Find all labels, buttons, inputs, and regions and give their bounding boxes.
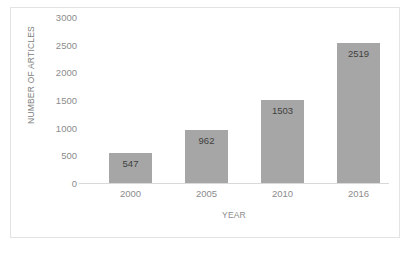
bar-value-label: 547 <box>109 158 152 169</box>
chart-frame: NUMBER OF ARTICLES 0 500 1000 1500 2000 … <box>10 7 400 238</box>
bar-2016[interactable]: 2519 <box>337 43 380 183</box>
y-tick-label: 1000 <box>41 124 77 134</box>
y-axis-tick-labels: 0 500 1000 1500 2000 2500 3000 <box>41 18 77 184</box>
bar-2000[interactable]: 547 <box>109 153 152 183</box>
y-tick-label: 2000 <box>41 68 77 78</box>
x-axis-title: YEAR <box>79 210 389 220</box>
x-axis-tick-labels: 2000 2005 2010 2016 <box>79 188 389 204</box>
y-tick-label: 2500 <box>41 41 77 51</box>
bar-value-label: 962 <box>185 135 228 146</box>
y-tick-label: 0 <box>41 179 77 189</box>
bar-2005[interactable]: 962 <box>185 130 228 183</box>
bar-2010[interactable]: 1503 <box>261 100 304 183</box>
y-tick-label: 500 <box>41 151 77 161</box>
x-tick-label: 2005 <box>169 188 245 199</box>
y-tick-label: 3000 <box>41 13 77 23</box>
bar-value-label: 2519 <box>337 48 380 59</box>
x-tick-label: 2010 <box>245 188 321 199</box>
x-tick-label: 2000 <box>93 188 169 199</box>
x-tick-label: 2016 <box>321 188 397 199</box>
plot-area: 547 962 1503 2519 <box>79 18 389 184</box>
bar-value-label: 1503 <box>261 105 304 116</box>
y-tick-label: 1500 <box>41 96 77 106</box>
x-axis-line <box>79 183 389 184</box>
y-axis-title: NUMBER OF ARTICLES <box>26 15 36 135</box>
